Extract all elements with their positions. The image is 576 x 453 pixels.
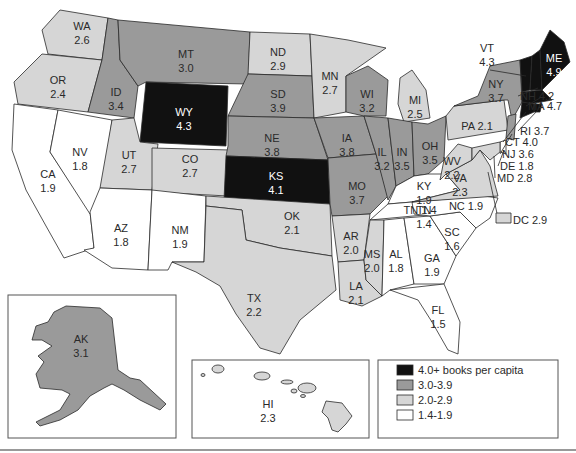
legend-label: 3.0-3.9 bbox=[418, 379, 452, 391]
state-label-abbr: CA bbox=[40, 168, 56, 180]
state-label-value: 3.7 bbox=[488, 92, 503, 104]
state-label-abbr: NV bbox=[72, 146, 88, 158]
state-label-value: 3.7 bbox=[349, 194, 364, 206]
state-label-abbr: MS bbox=[364, 248, 381, 260]
state-label-value: 2.1 bbox=[348, 294, 363, 306]
legend-label: 2.0-2.9 bbox=[418, 394, 452, 406]
state-label-abbr: CO bbox=[182, 153, 199, 165]
state-label-abbr: AR bbox=[343, 230, 358, 242]
state-label-value: 2.7 bbox=[322, 84, 337, 96]
state-label-value: 2.2 bbox=[246, 306, 261, 318]
state-label-value: 2.5 bbox=[407, 108, 422, 120]
state-label-abbr: UT bbox=[122, 149, 137, 161]
state-label-abbr: OR bbox=[50, 74, 67, 86]
hawaii-inset: HI 2.3 bbox=[192, 360, 369, 438]
state-label-value: 4.1 bbox=[268, 184, 283, 196]
state-label-value: 1.9 bbox=[172, 238, 187, 250]
state-label-abbr: GA bbox=[424, 252, 441, 264]
legend-swatch bbox=[397, 395, 413, 405]
state-label-abbr: IN bbox=[397, 146, 408, 158]
state-label-value: 3.4 bbox=[108, 100, 123, 112]
alaska-inset: AK 3.1 bbox=[8, 295, 176, 438]
callout-label: 4.3 bbox=[479, 56, 494, 68]
callout-label: DE 1.8 bbox=[500, 160, 534, 172]
state-label-value: 2.9 bbox=[270, 60, 285, 72]
state-label-value: 2.7 bbox=[121, 163, 136, 175]
state-label-abbr: AZ bbox=[114, 222, 128, 234]
hi-abbr: HI bbox=[263, 398, 274, 410]
state-label-abbr: MI bbox=[409, 94, 421, 106]
state-label-abbr: FL bbox=[432, 304, 445, 316]
state-label-value: 3.2 bbox=[374, 160, 389, 172]
state-label-abbr: ND bbox=[270, 46, 286, 58]
legend-swatch bbox=[397, 365, 413, 375]
ak-abbr: AK bbox=[74, 333, 89, 345]
state-label-abbr: ME bbox=[546, 52, 563, 64]
state-label-abbr: MN bbox=[321, 70, 338, 82]
state-label-value: 2.0 bbox=[343, 244, 358, 256]
state-label-value: 2.7 bbox=[182, 167, 197, 179]
state-label-value: 2.1 bbox=[284, 224, 299, 236]
state-label-abbr: OH bbox=[422, 140, 439, 152]
state-label-abbr: MT bbox=[178, 48, 194, 60]
callout-label: NJ 3.6 bbox=[502, 148, 534, 160]
state-label-value: 3.8 bbox=[339, 146, 354, 158]
state-label-value: 1.9 bbox=[424, 266, 439, 278]
state-label-value: 1.4 bbox=[416, 218, 431, 230]
dc-label: DC 2.9 bbox=[513, 214, 547, 226]
state-label-abbr: KY bbox=[417, 180, 432, 192]
ak-value: 3.1 bbox=[73, 347, 88, 359]
state-label-value: 3.8 bbox=[264, 146, 279, 158]
hi-value: 2.3 bbox=[260, 412, 275, 424]
state-label-abbr: NE bbox=[264, 132, 279, 144]
legend-label: 4.0+ books per capita bbox=[418, 364, 524, 376]
state-label-value: 2.2 bbox=[444, 169, 459, 181]
legend-swatch bbox=[397, 410, 413, 420]
callout-label: MD 2.8 bbox=[497, 172, 532, 184]
state-label-abbr: AL bbox=[389, 248, 402, 260]
legend-swatch bbox=[397, 380, 413, 390]
state-label-abbr: SC bbox=[444, 226, 459, 238]
state-label-abbr: WY bbox=[175, 106, 193, 118]
state-label-value: 2.0 bbox=[364, 262, 379, 274]
state-label-abbr: NY bbox=[488, 78, 504, 90]
state-label-value: 1.5 bbox=[430, 318, 445, 330]
state-label-value: 3.0 bbox=[178, 62, 193, 74]
legend-label: 1.4-1.9 bbox=[418, 409, 452, 421]
callout-label: VT bbox=[480, 42, 494, 54]
state-label-value: 3.5 bbox=[422, 154, 437, 166]
state-label-abbr: NM bbox=[171, 224, 188, 236]
callout-label: TN 1.4 bbox=[403, 204, 436, 216]
state-label-abbr: KS bbox=[269, 170, 284, 182]
state-label-value: 2.6 bbox=[74, 34, 89, 46]
us-choropleth-map: WA2.6OR2.4CA1.9NV1.8ID3.4MT3.0WY4.3UT2.7… bbox=[0, 0, 576, 453]
state-label-value: 4.9 bbox=[546, 66, 561, 78]
state-label-value: 3.2 bbox=[359, 102, 374, 114]
state-label-value: 2.3 bbox=[452, 186, 467, 198]
dc-swatch bbox=[496, 213, 511, 223]
callout-label: NC 1.9 bbox=[449, 200, 483, 212]
state-label-value: 1.8 bbox=[113, 236, 128, 248]
legend: 4.0+ books per capita3.0-3.92.0-2.91.4-1… bbox=[378, 360, 558, 438]
state-label-value: 2.4 bbox=[50, 88, 65, 100]
state-label-value: 4.3 bbox=[176, 120, 191, 132]
state-label-abbr: ID bbox=[111, 86, 122, 98]
state-label-value: 3.9 bbox=[270, 102, 285, 114]
state-label-abbr: IL bbox=[377, 146, 386, 158]
state-label-abbr: LA bbox=[349, 280, 363, 292]
state-label-abbr: WA bbox=[73, 20, 91, 32]
state-label-abbr: SD bbox=[270, 88, 285, 100]
callout-label: PA 2.1 bbox=[461, 120, 493, 132]
state-label-abbr: MO bbox=[348, 180, 366, 192]
state-label-abbr: TX bbox=[247, 292, 262, 304]
state-label-value: 3.5 bbox=[394, 160, 409, 172]
state-label-abbr: WI bbox=[360, 88, 373, 100]
state-label-value: 1.9 bbox=[40, 182, 55, 194]
state-label-abbr: IA bbox=[342, 132, 353, 144]
state-fl bbox=[390, 284, 460, 354]
state-label-value: 1.8 bbox=[72, 160, 87, 172]
callout-label: MA 4.7 bbox=[528, 100, 562, 112]
state-label-abbr: OK bbox=[284, 210, 301, 222]
state-label-value: 1.6 bbox=[444, 240, 459, 252]
state-label-value: 1.8 bbox=[388, 262, 403, 274]
